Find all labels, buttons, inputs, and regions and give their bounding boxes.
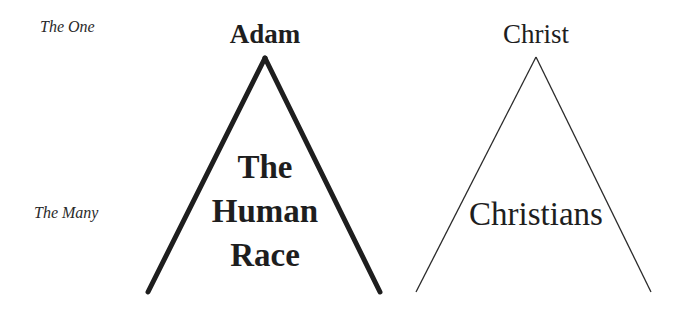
apex-label-adam: Adam	[205, 19, 325, 50]
inner-line-human: Human	[195, 189, 335, 233]
inner-line-the: The	[195, 145, 335, 189]
christ-triangle	[416, 57, 651, 292]
apex-label-christ: Christ	[476, 19, 596, 50]
inner-line-race: Race	[195, 233, 335, 277]
christians-text: Christians	[446, 192, 626, 236]
human-race-text: The Human Race	[195, 145, 335, 277]
